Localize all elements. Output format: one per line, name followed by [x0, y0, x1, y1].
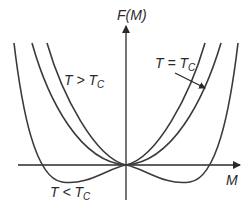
label-t-equals-tc: T = TC: [155, 55, 196, 73]
x-axis-label: M: [226, 172, 238, 188]
y-axis-label: F(M): [117, 7, 147, 23]
label-t-above-tc: T > TC: [64, 72, 105, 90]
label-t-below-tc: T < TC: [50, 184, 91, 202]
free-energy-diagram: F(M) M T > TC T = TC T < TC: [0, 0, 249, 208]
